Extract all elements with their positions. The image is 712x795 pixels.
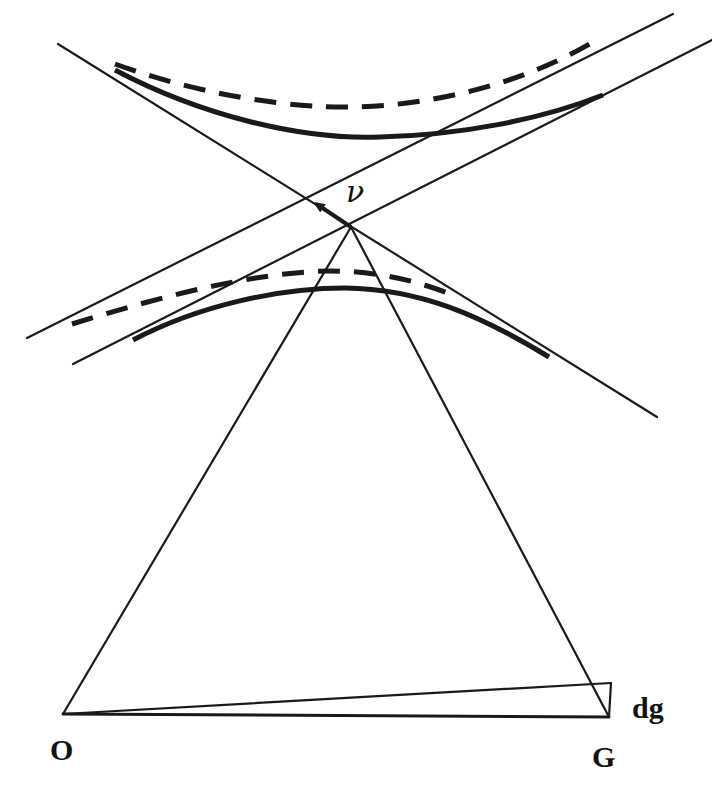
- upper-solid-branch: [115, 70, 603, 137]
- origin-label: O: [50, 733, 73, 766]
- diagonal-line: [58, 44, 657, 417]
- diagram-canvas: ν O G dg: [0, 0, 712, 795]
- nu-label: ν: [346, 174, 364, 209]
- vertex-to-g-line: [351, 227, 609, 717]
- o-to-g-line: [63, 714, 609, 717]
- upper-dashed-branch: [115, 42, 593, 107]
- o-to-g-displaced-line: [63, 683, 611, 714]
- lower-solid-branch: [133, 288, 549, 357]
- dg-segment: [609, 683, 611, 717]
- lower-parallel-line: [73, 40, 712, 364]
- vertex-to-o-line: [63, 227, 351, 714]
- g-label: G: [592, 740, 615, 773]
- dg-label: dg: [632, 691, 664, 724]
